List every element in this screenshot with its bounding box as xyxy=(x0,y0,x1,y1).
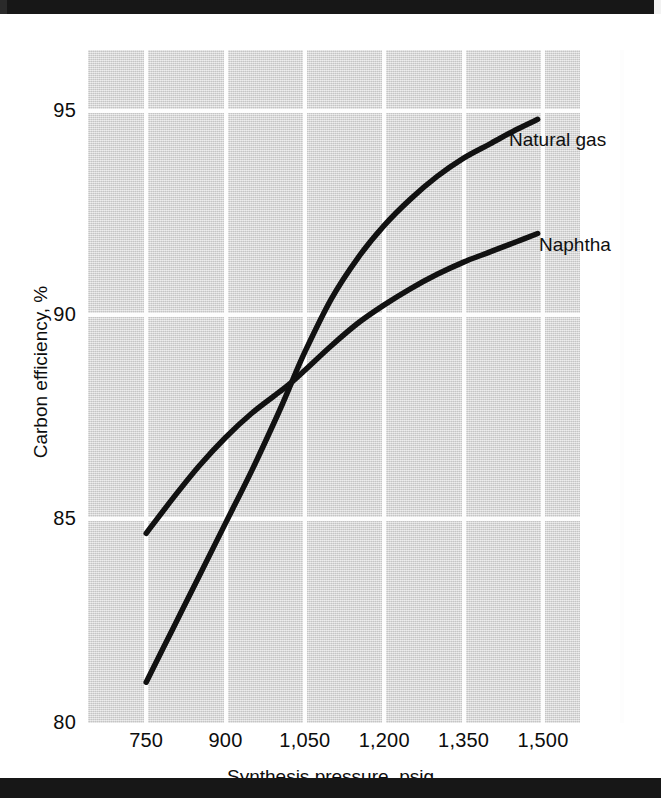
gridline-vertical xyxy=(462,50,466,723)
gridline-vertical xyxy=(620,50,624,723)
plot-area xyxy=(88,50,580,723)
scan-border-bottom xyxy=(0,778,661,798)
x-tick-label: 1,500 xyxy=(488,729,598,752)
y-axis-title: Carbon efficiency, % xyxy=(30,232,52,512)
figure-root: 80859095 7509001,0501,2001,3501,500 Natu… xyxy=(0,0,661,798)
gridline-vertical xyxy=(303,50,307,723)
scan-border-top xyxy=(0,0,661,14)
gridline-vertical xyxy=(144,50,148,723)
gridline-horizontal xyxy=(88,517,580,521)
series-label-natural-gas: Natural gas xyxy=(509,129,606,151)
gridline-vertical xyxy=(224,50,228,723)
chart-canvas: 80859095 7509001,0501,2001,3501,500 Natu… xyxy=(0,14,661,778)
gridline-horizontal xyxy=(88,109,580,113)
series-label-naphtha: Naphtha xyxy=(539,234,611,256)
y-tick-label: 80 xyxy=(6,711,76,734)
gridline-vertical xyxy=(382,50,386,723)
plot-halftone-texture xyxy=(88,50,580,723)
gridline-horizontal xyxy=(88,313,580,317)
y-tick-label: 95 xyxy=(6,99,76,122)
